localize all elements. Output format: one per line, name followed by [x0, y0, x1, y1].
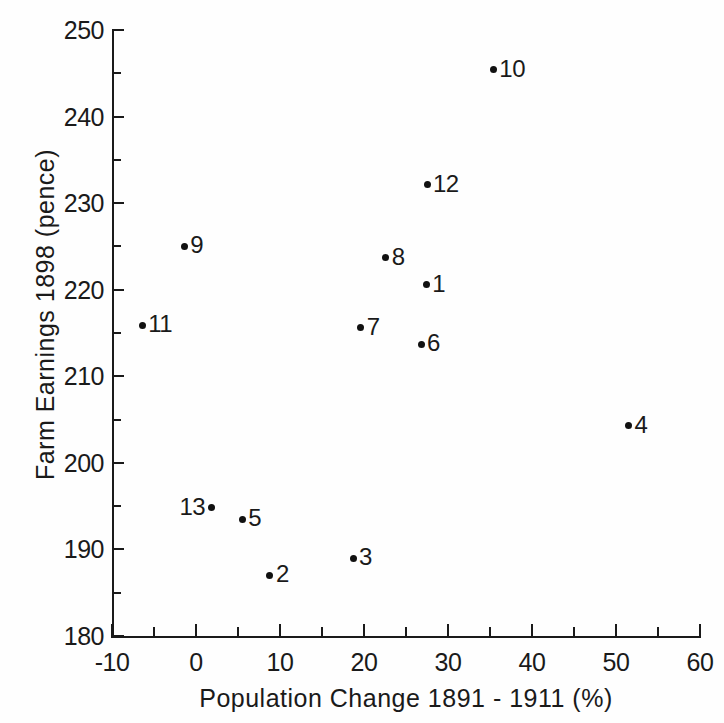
x-tick-label-10: 10 [267, 648, 294, 677]
y-axis-title: Farm Earnings 1898 (pence) [31, 15, 60, 615]
data-point-label-1: 1 [432, 272, 445, 296]
x-tick-label-40: 40 [519, 648, 546, 677]
data-point-label-12: 12 [433, 172, 459, 196]
data-point-label-9: 9 [190, 233, 203, 257]
data-point-label-11: 11 [148, 312, 172, 336]
x-tick-label-50: 50 [603, 648, 630, 677]
y-tick-label-210: 210 [64, 362, 104, 391]
y-tick-label-250: 250 [64, 16, 104, 45]
data-point-label-10: 10 [499, 57, 525, 81]
x-axis-line [111, 636, 701, 638]
data-point-label-7: 7 [367, 315, 380, 339]
x-tick-label-0: 0 [189, 648, 202, 677]
data-point-label-2: 2 [276, 562, 289, 586]
data-point-label-8: 8 [392, 245, 405, 269]
data-point-marker-8 [382, 254, 389, 261]
data-point-marker-12 [424, 181, 431, 188]
y-tick-label-180: 180 [64, 622, 104, 651]
data-point-marker-6 [418, 341, 425, 348]
x-tick-label-20: 20 [351, 648, 378, 677]
data-point-marker-10 [490, 66, 497, 73]
data-point-marker-13 [208, 504, 215, 511]
x-tick-label-30: 30 [435, 648, 462, 677]
scatter-plot-figure: 180190200210220230240250 -10010203040506… [0, 0, 724, 723]
data-point-label-6: 6 [427, 331, 440, 355]
data-point-marker-2 [266, 572, 273, 579]
data-point-marker-9 [181, 243, 188, 250]
data-point-marker-11 [139, 322, 146, 329]
plot-area: 12345678910111213 [112, 30, 700, 636]
x-tick-label-60: 60 [687, 648, 714, 677]
data-point-marker-1 [423, 281, 430, 288]
x-axis-title: Population Change 1891 - 1911 (%) [112, 684, 700, 713]
y-tick-label-220: 220 [64, 275, 104, 304]
y-tick-label-190: 190 [64, 535, 104, 564]
data-point-marker-7 [357, 324, 364, 331]
data-point-label-4: 4 [635, 413, 648, 437]
data-point-label-3: 3 [359, 545, 372, 569]
data-point-marker-5 [239, 516, 246, 523]
data-point-marker-3 [350, 555, 357, 562]
data-point-marker-4 [625, 422, 632, 429]
y-tick-label-230: 230 [64, 189, 104, 218]
data-point-label-13: 13 [179, 495, 205, 519]
x-tick-label--10: -10 [95, 648, 130, 677]
x-axis-tick-labels: -100102030405060 [0, 648, 724, 682]
y-tick-label-240: 240 [64, 102, 104, 131]
data-point-label-5: 5 [248, 506, 261, 530]
y-tick-label-200: 200 [64, 448, 104, 477]
